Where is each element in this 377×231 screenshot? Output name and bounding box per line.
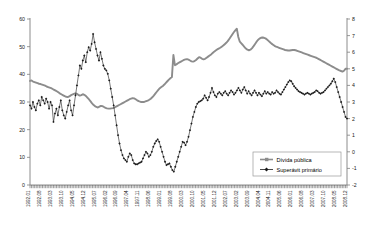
y-right-tick-label: 8	[352, 16, 355, 22]
y-axis-left: 0102030405060	[19, 16, 30, 188]
y-right-tick-label: 5	[352, 66, 355, 72]
x-tick-labels: 1992.011992.081993.031993.101994.051994.…	[26, 190, 348, 207]
y-right-tick-label: 6	[352, 49, 355, 55]
series-layer	[29, 29, 348, 173]
x-tick-label: 1997.04	[124, 190, 129, 207]
chart-svg: 0102030405060 -2-1012345678 1992.011992.…	[0, 0, 377, 231]
x-tick-label: 1995.07	[92, 190, 97, 207]
x-tick-label: 2001.12	[212, 190, 217, 207]
x-tick-label: 2003.09	[245, 190, 250, 207]
x-tick-label: 2002.07	[223, 190, 228, 207]
y-axis-right: -2-1012345678	[347, 16, 357, 188]
x-tick-label: 2004.04	[256, 190, 261, 207]
y-left-tick-label: 40	[19, 71, 25, 77]
x-tick-label: 1993.03	[48, 190, 53, 207]
y-right-tick-label: 0	[352, 149, 355, 155]
x-tick-label: 2006.08	[299, 190, 304, 207]
x-tick-label: 2000.10	[190, 190, 195, 207]
y-left-tick-label: 0	[22, 182, 25, 188]
x-tick-label: 1992.08	[37, 190, 42, 207]
x-tick-label: 1996.09	[113, 190, 118, 207]
x-tick-label: 1997.11	[135, 190, 140, 207]
x-tick-label: 1999.08	[168, 190, 173, 207]
y-right-tick-label: 4	[352, 82, 355, 88]
x-axis	[30, 185, 347, 188]
x-tick-label: 2004.11	[266, 190, 271, 207]
y-left-tick-label: 60	[19, 16, 25, 22]
x-tick-label: 1994.12	[81, 190, 86, 207]
x-tick-label: 1999.01	[157, 190, 162, 207]
x-tick-label: 2005.06	[277, 190, 282, 207]
x-tick-label: 1998.06	[146, 190, 151, 207]
x-tick-label: 2007.10	[321, 190, 326, 207]
x-tick-label: 2001.05	[201, 190, 206, 207]
x-tick-label: 2000.03	[179, 190, 184, 207]
chart-container: 0102030405060 -2-1012345678 1992.011992.…	[0, 0, 377, 231]
legend-label: Dívida pública	[277, 157, 313, 163]
x-tick-label: 1992.01	[26, 190, 31, 207]
y-left-tick-label: 10	[19, 154, 25, 160]
series-debt	[30, 29, 347, 109]
x-tick-label: 1994.05	[70, 190, 75, 207]
y-right-tick-label: 2	[352, 116, 355, 122]
y-right-tick-label: -1	[352, 165, 357, 171]
y-right-tick-label: 7	[352, 33, 355, 39]
y-right-tick-label: 1	[352, 132, 355, 138]
y-left-tick-label: 50	[19, 44, 25, 50]
x-tick-label: 2008.05	[332, 190, 337, 207]
y-right-tick-label: 3	[352, 99, 355, 105]
x-tick-label: 2003.02	[234, 190, 239, 207]
x-tick-label: 2008.12	[343, 190, 348, 207]
x-tick-label: 1996.02	[103, 190, 108, 207]
chart-legend[interactable]: Dívida públicaSuperávit primário	[253, 152, 341, 176]
legend-label: Superávit primário	[277, 167, 322, 173]
legend-marker-square	[265, 158, 268, 161]
x-tick-label: 1993.10	[59, 190, 64, 207]
x-tick-label: 2006.01	[288, 190, 293, 207]
y-left-tick-label: 30	[19, 99, 25, 105]
y-left-tick-label: 20	[19, 127, 25, 133]
x-tick-label: 2007.03	[310, 190, 315, 207]
y-right-tick-label: -2	[352, 182, 357, 188]
